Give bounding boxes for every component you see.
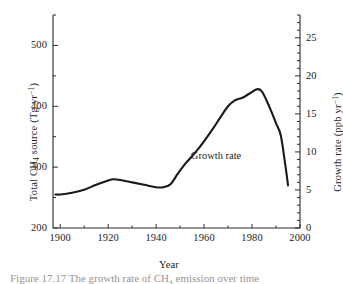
x-tick-label: 1960: [193, 233, 214, 244]
data-series-line: [55, 89, 288, 195]
y-axis-right-title: Growth rate (ppb yr−1): [332, 57, 343, 227]
x-tick-label: 1940: [145, 233, 166, 244]
y-right-tick-label: 10: [306, 147, 317, 158]
axes-group: [53, 15, 300, 228]
y-right-tick-label: 15: [306, 109, 317, 120]
growth-rate-annotation: Growth rate: [191, 150, 241, 161]
x-tick-label: 1900: [49, 233, 70, 244]
y-right-tick-label: 20: [306, 71, 317, 82]
figure-caption: Figure 17.17 The growth rate of CH₄ emis…: [10, 272, 328, 284]
y-axis-left-title: Total CH4 source (Tg yr−1): [28, 57, 39, 227]
tick-marks-group: [53, 15, 300, 228]
y-right-tick-label: 25: [306, 33, 317, 44]
x-tick-label: 1920: [97, 233, 118, 244]
y-left-tick-label: 500: [19, 40, 47, 51]
x-axis-title: Year: [0, 259, 338, 270]
x-tick-label: 1980: [241, 233, 262, 244]
y-right-tick-label: 5: [306, 185, 311, 196]
x-tick-label: 2000: [289, 233, 310, 244]
